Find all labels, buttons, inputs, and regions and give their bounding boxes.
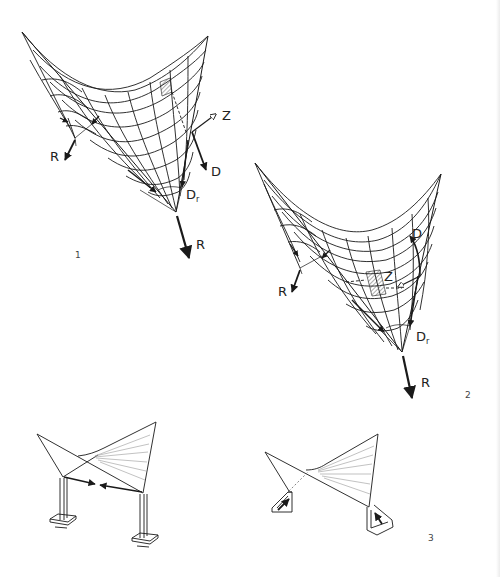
tie-arrow-left <box>64 477 95 484</box>
compression-arrow <box>192 132 206 170</box>
figure-number-3: 3 <box>428 533 434 543</box>
figure-3-tie-forces <box>64 477 142 492</box>
figure-3-abutment-forces <box>278 499 382 524</box>
tension-arrow <box>192 114 216 132</box>
figure-1-forces <box>65 114 216 258</box>
label-reaction-left: R <box>50 149 59 164</box>
figure-3-abutment-variant <box>265 434 393 535</box>
reaction-bottom-arrow <box>177 216 189 258</box>
diagram-canvas: R Z D Dr R 1 <box>0 0 500 577</box>
label-reaction-left: R <box>278 284 287 299</box>
label-tension: Z <box>222 108 231 123</box>
label-compression-resultant: Dr <box>186 187 200 204</box>
reaction-left-arrow <box>292 270 300 292</box>
abutment-arrow-right <box>375 513 382 524</box>
figure-1 <box>22 32 208 212</box>
label-tension: Z <box>384 269 393 284</box>
figure-number-2: 2 <box>465 390 471 400</box>
label-reaction-bottom: R <box>421 375 430 390</box>
figure-2 <box>255 163 441 352</box>
figure-3-columns-variant <box>37 422 158 547</box>
figure-number-1: 1 <box>75 250 81 260</box>
label-compression: D <box>211 164 221 179</box>
reaction-left-arrow <box>65 140 75 160</box>
reaction-bottom-arrow <box>403 356 412 398</box>
label-compression-resultant: Dr <box>416 329 430 346</box>
label-reaction-bottom: R <box>196 237 205 252</box>
label-compression: D <box>412 226 422 241</box>
